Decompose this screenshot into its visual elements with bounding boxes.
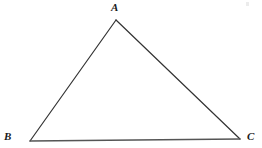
triangle-edge-ac: [116, 20, 240, 139]
geometry-figure-canvas: A B C: [0, 0, 262, 148]
vertex-label-a: A: [111, 2, 118, 13]
triangle-edge-ab: [30, 20, 116, 141]
triangle-diagram: [0, 0, 262, 148]
triangle-edge-bc: [30, 139, 240, 141]
scan-artifact-speck: [246, 2, 249, 6]
vertex-label-b: B: [4, 131, 11, 142]
vertex-label-c: C: [247, 131, 254, 142]
